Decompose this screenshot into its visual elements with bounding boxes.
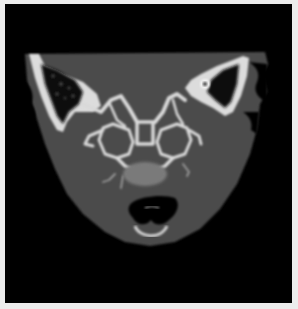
image-frame xyxy=(0,0,298,309)
ct-scan-graphic xyxy=(5,4,292,303)
ct-scan-image xyxy=(5,4,292,303)
